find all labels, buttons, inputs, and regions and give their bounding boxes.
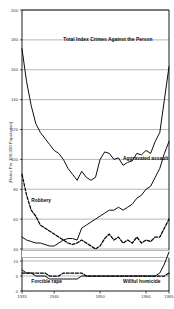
x-tick-label: 1940 [44,294,64,299]
x-tick-label: 1950 [90,294,110,299]
data-series-group [22,49,169,279]
y-tick-label: 140 [2,97,18,102]
gridlines [22,10,169,276]
y-tick-label: 0 [2,289,18,294]
y-tick-label: 100 [2,157,18,162]
y-tick-label: 200 [2,8,18,13]
y-tick-label: 10 [2,259,18,264]
y-tick-label: 120 [2,127,18,132]
y-tick-label: 80 [2,187,18,192]
axis-break-marker [22,250,169,258]
y-tick-label: 160 [2,67,18,72]
y-tick-label: 5 [2,274,18,279]
series-annotation: Willful homicide [123,279,160,284]
y-tick-label: 40 [2,247,18,252]
series-line-robbery [22,174,169,249]
series-annotation: Aggravated assault [123,156,168,161]
series-annotation: Robbery [31,198,51,203]
x-tick-label: 1965 [159,294,174,299]
y-tick-label: 60 [2,217,18,222]
chart-figure: (Rates Per 100,000 Population) 200180160… [0,0,174,309]
y-tick-label: 180 [2,37,18,42]
series-annotation: Forcible rape [31,279,62,284]
crime-rate-line-chart [0,0,174,309]
x-tick-label: 1933 [12,294,32,299]
series-annotation: Total Index Crimes Against the Person [63,37,152,42]
x-tick-label: 1960 [136,294,156,299]
